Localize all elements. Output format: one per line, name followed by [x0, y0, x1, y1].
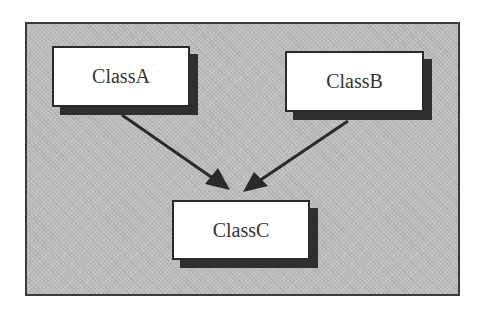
class-c-label: ClassC	[213, 219, 270, 242]
arrowhead-icon	[243, 172, 268, 192]
arrow-b-to-c	[243, 121, 348, 192]
class-b-node[interactable]: ClassB	[285, 51, 424, 112]
class-a-label: ClassA	[92, 65, 150, 88]
class-b-label: ClassB	[326, 70, 383, 93]
class-c-node[interactable]: ClassC	[172, 200, 310, 260]
arrow-a-to-c	[122, 115, 230, 190]
class-a-node[interactable]: ClassA	[52, 46, 190, 107]
arrowhead-icon	[205, 168, 230, 190]
